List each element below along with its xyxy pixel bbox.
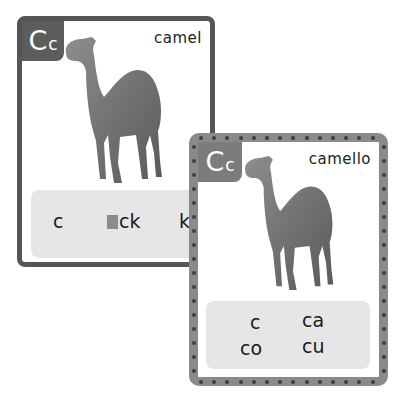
rivet xyxy=(192,369,196,373)
rivet xyxy=(192,313,196,317)
rivet xyxy=(331,380,335,384)
blank-box xyxy=(107,215,118,229)
rivet xyxy=(192,285,196,289)
rivet xyxy=(291,136,295,140)
rivet xyxy=(382,145,386,149)
rivet xyxy=(344,136,348,140)
rivet xyxy=(382,341,386,345)
rivet xyxy=(318,380,322,384)
rivet xyxy=(265,380,269,384)
rivet xyxy=(382,215,386,219)
rivet xyxy=(192,229,196,233)
spelling-ca: ca xyxy=(302,309,324,331)
rivet xyxy=(278,380,282,384)
rivet xyxy=(192,299,196,303)
rivet xyxy=(371,380,375,384)
rivet xyxy=(192,215,196,219)
rivet xyxy=(371,136,375,140)
rivet xyxy=(192,243,196,247)
rivet xyxy=(382,271,386,275)
rivet xyxy=(382,173,386,177)
camel-image xyxy=(238,148,348,298)
rivet xyxy=(357,380,361,384)
camel-image xyxy=(58,31,178,189)
rivet xyxy=(192,341,196,345)
rivet xyxy=(192,271,196,275)
rivet xyxy=(192,145,196,149)
rivet xyxy=(382,201,386,205)
rivet xyxy=(192,355,196,359)
rivet xyxy=(382,369,386,373)
spelling-co: co xyxy=(240,337,262,359)
rivet xyxy=(199,136,203,140)
sound-card-english: Cc camel c ck k xyxy=(17,16,215,267)
rivet xyxy=(344,380,348,384)
spelling-c: c xyxy=(250,311,260,333)
rivet xyxy=(382,187,386,191)
rivet xyxy=(225,136,229,140)
rivet xyxy=(305,136,309,140)
badge-lowercase: c xyxy=(225,145,234,185)
rivet xyxy=(239,136,243,140)
badge-lowercase: c xyxy=(48,24,57,64)
rivet xyxy=(382,313,386,317)
rivet xyxy=(192,327,196,331)
spelling-ck: ck xyxy=(107,210,140,232)
badge-uppercase: C xyxy=(205,142,224,182)
rivet xyxy=(382,159,386,163)
rivet xyxy=(212,136,216,140)
rivet xyxy=(382,299,386,303)
rivet xyxy=(382,229,386,233)
rivet xyxy=(192,187,196,191)
rivet xyxy=(382,243,386,247)
rivet xyxy=(382,285,386,289)
rivet xyxy=(192,173,196,177)
spelling-ck-text: ck xyxy=(119,210,140,232)
rivet xyxy=(212,380,216,384)
rivet xyxy=(382,355,386,359)
rivet xyxy=(192,257,196,261)
rivet xyxy=(225,380,229,384)
rivet xyxy=(357,136,361,140)
rivet xyxy=(199,380,203,384)
rivet xyxy=(252,136,256,140)
rivet xyxy=(192,159,196,163)
spelling-panel: c ca co cu xyxy=(206,301,370,369)
rivet xyxy=(239,380,243,384)
rivet xyxy=(382,257,386,261)
rivet xyxy=(265,136,269,140)
rivet xyxy=(331,136,335,140)
spelling-panel: c ck k xyxy=(31,190,206,258)
sound-card-spanish: Cc camello c ca co cu xyxy=(189,133,388,386)
spelling-cu: cu xyxy=(302,335,325,357)
rivet xyxy=(192,201,196,205)
badge-uppercase: C xyxy=(28,21,47,61)
spelling-c: c xyxy=(53,210,63,232)
letter-badge: Cc xyxy=(198,142,242,182)
rivet xyxy=(291,380,295,384)
rivet xyxy=(318,136,322,140)
rivet xyxy=(278,136,282,140)
rivet xyxy=(252,380,256,384)
rivet xyxy=(382,327,386,331)
rivet xyxy=(305,380,309,384)
